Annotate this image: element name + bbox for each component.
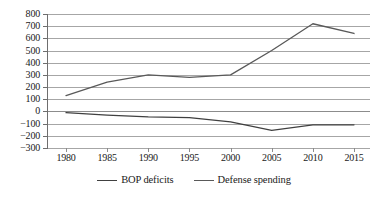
series-lines — [0, 0, 388, 198]
line-chart: 8007006005004003002001000−100−200−300 19… — [0, 0, 388, 198]
legend-line-swatch — [194, 180, 214, 181]
series-line-defense-spending — [66, 24, 354, 96]
legend-label: BOP deficits — [121, 174, 173, 186]
legend-item[interactable]: BOP deficits — [97, 174, 173, 186]
series-line-bop-deficits — [66, 113, 354, 131]
legend-label: Defense spending — [218, 174, 291, 186]
legend-line-swatch — [97, 180, 117, 181]
legend-item[interactable]: Defense spending — [194, 174, 291, 186]
chart-legend: BOP deficitsDefense spending — [0, 174, 388, 186]
